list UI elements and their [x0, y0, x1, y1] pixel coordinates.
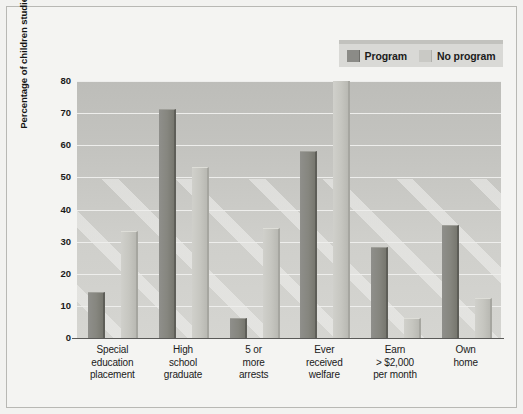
y-tick-label: 10 — [45, 300, 71, 311]
x-category-label-line: received — [289, 357, 360, 370]
bar-no-program — [263, 228, 280, 338]
x-category-label-line: education — [77, 357, 148, 370]
x-category-label: Specialeducationplacement — [77, 344, 148, 382]
x-category-label-line: school — [148, 357, 219, 370]
legend-label: Program — [365, 50, 407, 62]
bar-program — [442, 225, 459, 338]
legend-label: No program — [437, 50, 496, 62]
bar-no-program — [475, 298, 492, 338]
bar-no-program — [121, 231, 138, 338]
x-category-label: Highschoolgraduate — [148, 344, 219, 382]
bar-program — [371, 247, 388, 338]
bar-program — [159, 109, 176, 338]
x-category-label-line: more — [218, 357, 289, 370]
chart-legend: ProgramNo program — [339, 40, 503, 67]
x-category-label-line: Own — [430, 344, 501, 357]
x-category-label: 5 ormorearrests — [218, 344, 289, 382]
bar-no-program — [404, 318, 421, 338]
x-axis-line — [72, 338, 504, 339]
x-category-label-line: welfare — [289, 369, 360, 382]
x-category-label: Everreceivedwelfare — [289, 344, 360, 382]
y-tick-label: 40 — [45, 204, 71, 215]
y-tick-label: 50 — [45, 171, 71, 182]
y-axis-title: Percentage of children studied — [18, 0, 29, 135]
legend-swatch-program — [347, 50, 360, 62]
x-category-label-line: placement — [77, 369, 148, 382]
bars-layer — [77, 81, 501, 338]
chart-figure: Percentage of children studied 010203040… — [0, 0, 523, 414]
x-category-label-line: Earn — [360, 344, 431, 357]
bar-program — [230, 318, 247, 338]
x-category-label: Earn> $2,000per month — [360, 344, 431, 382]
x-category-label-line: per month — [360, 369, 431, 382]
legend-swatch-noprogram — [419, 50, 432, 62]
legend-entry[interactable]: No program — [419, 50, 496, 62]
x-category-label-line: Special — [77, 344, 148, 357]
x-category-label: Ownhome — [430, 344, 501, 369]
legend-entry[interactable]: Program — [347, 50, 407, 62]
y-axis-ticks: 01020304050607080 — [43, 81, 71, 338]
bar-program — [300, 151, 317, 338]
x-axis-category-labels: SpecialeducationplacementHighschoolgradu… — [77, 344, 501, 404]
plot-area — [77, 81, 501, 338]
x-category-label-line: arrests — [218, 369, 289, 382]
bar-no-program — [333, 81, 350, 338]
y-tick-label: 30 — [45, 236, 71, 247]
y-tick-label: 20 — [45, 268, 71, 279]
x-category-label-line: home — [430, 357, 501, 370]
x-category-label-line: High — [148, 344, 219, 357]
y-tick-label: 80 — [45, 75, 71, 86]
bar-no-program — [192, 167, 209, 338]
x-category-label-line: > $2,000 — [360, 357, 431, 370]
x-category-label-line: graduate — [148, 369, 219, 382]
x-category-label-line: Ever — [289, 344, 360, 357]
y-tick-label: 70 — [45, 107, 71, 118]
y-tick-label: 0 — [45, 332, 71, 343]
x-category-label-line: 5 or — [218, 344, 289, 357]
y-tick-label: 60 — [45, 139, 71, 150]
bar-program — [88, 292, 105, 338]
